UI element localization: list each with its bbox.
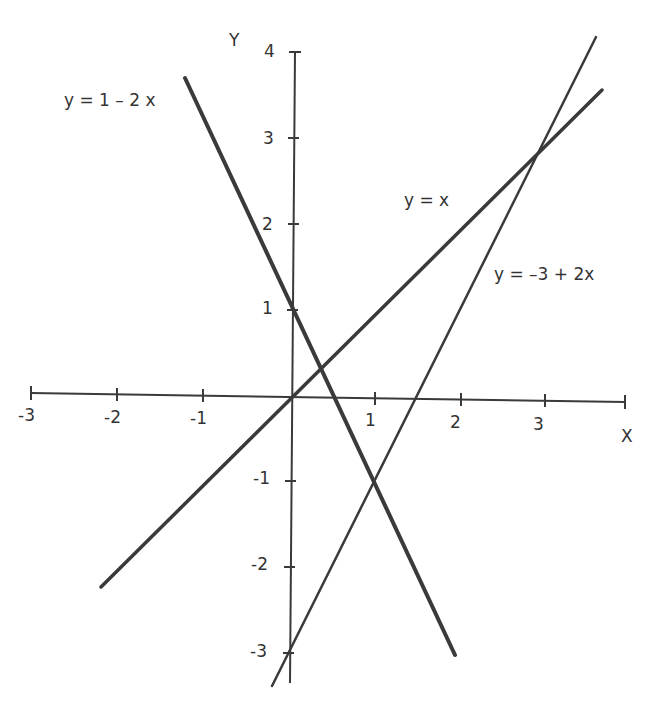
y-tick-p2: 2 xyxy=(262,216,273,233)
y-axis xyxy=(283,52,301,683)
x-tick-m2: -2 xyxy=(104,409,121,426)
y-tick-m2: -2 xyxy=(251,556,268,573)
x-tick-p2: 2 xyxy=(450,414,461,431)
y-tick-m1: -1 xyxy=(253,470,270,487)
label-line2: y = x xyxy=(404,192,449,209)
x-tick-1: 1 xyxy=(365,412,376,429)
y-tick-p3: 3 xyxy=(263,130,274,147)
y-tick-p4: 4 xyxy=(264,43,275,60)
line-y-equals-1-minus-2x xyxy=(185,78,455,655)
label-line1: y = 1 – 2 x xyxy=(64,92,156,109)
x-tick-m3: -3 xyxy=(18,407,35,424)
x-axis-title: X xyxy=(621,428,633,445)
y-axis-title: Y xyxy=(229,32,239,49)
line-y-equals-x xyxy=(101,90,602,587)
line-y-equals-minus-3-plus-2x xyxy=(272,37,596,686)
x-tick-p3: 3 xyxy=(533,416,544,433)
y-tick-m3: -3 xyxy=(250,643,267,660)
x-tick-m1: -1 xyxy=(190,410,207,427)
x-axis xyxy=(31,386,625,409)
label-line3: y = –3 + 2x xyxy=(494,266,594,283)
y-tick-p1: 1 xyxy=(262,300,273,317)
